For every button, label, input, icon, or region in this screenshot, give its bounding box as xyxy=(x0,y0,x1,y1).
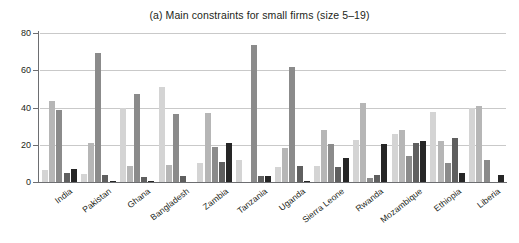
x-axis-label: Mozambique xyxy=(378,186,424,225)
x-axis-label: Rwanda xyxy=(354,186,385,214)
x-axis-label: Zambia xyxy=(201,186,230,212)
x-axis-label: Bangladesh xyxy=(148,186,191,222)
x-axis-label: Sierra Leone xyxy=(301,186,347,225)
x-axis-label: Ethiopia xyxy=(432,186,463,213)
x-axis-label: Pakistan xyxy=(81,186,114,215)
x-axis-label: Uganda xyxy=(277,186,307,213)
x-axis-labels: IndiaPakistanGhanaBangladeshZambiaTanzan… xyxy=(0,0,519,243)
x-axis-label: Tanzania xyxy=(235,186,269,216)
x-axis-label: Ghana xyxy=(125,186,152,210)
x-axis-label: India xyxy=(53,186,74,206)
x-axis-label: Liberia xyxy=(475,186,502,210)
bar-chart: (a) Main constraints for small firms (si… xyxy=(0,0,519,243)
